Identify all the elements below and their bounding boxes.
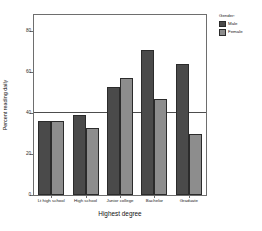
x-tick-label: Graduate [180,199,198,203]
bar [107,87,120,195]
x-axis-title: Highest degree [33,210,207,217]
legend-swatch-icon [219,21,226,28]
bar [38,121,51,195]
x-tick-label: Lt high school [38,199,65,203]
y-tick-label: 20 [26,152,31,157]
bar [176,64,189,195]
legend-title: Gender: [219,13,261,18]
bar-group [172,15,206,195]
plot-area: 020406080Lt high schoolHigh schoolJunior… [33,14,207,196]
chart-legend: Gender: MaleFemale [219,13,261,38]
x-tick-label: Bachelor [146,199,163,203]
bar [73,115,86,195]
legend-swatch-icon [219,29,226,36]
legend-entry-label: Male [228,22,238,26]
y-tick-label: 80 [26,29,31,34]
x-tick-label: High school [74,199,97,203]
y-tick-label: 0 [28,193,31,198]
bar [51,121,64,195]
y-axis-title: Percent reading daily [2,14,12,196]
legend-entry: Female [219,29,261,36]
legend-entry: Male [219,21,261,28]
bar [120,78,133,195]
bar-group [137,15,171,195]
x-tick-label: Junior college [106,199,133,203]
bar-chart: Percent reading daily 020406080Lt high s… [0,0,262,231]
bar-group [68,15,102,195]
bar [154,99,167,195]
bar [86,128,99,196]
bar-group [103,15,137,195]
legend-entries: MaleFemale [219,21,261,36]
legend-entry-label: Female [228,30,243,34]
bar [141,50,154,195]
bar [189,134,202,195]
plot-inner: 020406080Lt high schoolHigh schoolJunior… [34,15,206,195]
y-tick-label: 40 [26,111,31,116]
bar-group [34,15,68,195]
y-tick-label: 60 [26,70,31,75]
